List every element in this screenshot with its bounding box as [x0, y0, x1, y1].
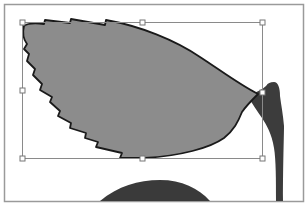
artboard-svg [0, 0, 308, 213]
handle-middle-right[interactable] [260, 90, 265, 95]
leaf-shape[interactable] [23, 19, 258, 158]
handle-top-center[interactable] [140, 20, 145, 25]
handle-bottom-center[interactable] [140, 156, 145, 161]
handle-bottom-right[interactable] [260, 156, 265, 161]
handle-bottom-left[interactable] [20, 156, 25, 161]
handle-middle-left[interactable] [20, 88, 25, 93]
handle-top-right[interactable] [260, 20, 265, 25]
drawing-canvas[interactable] [0, 0, 308, 213]
handle-top-left[interactable] [20, 20, 25, 25]
dome-shape[interactable] [100, 180, 210, 201]
